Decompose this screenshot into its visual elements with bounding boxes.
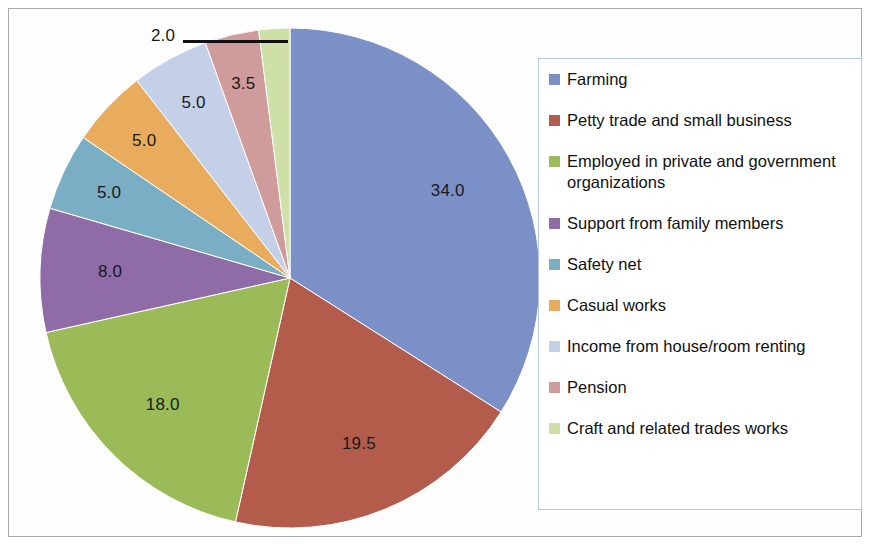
- legend-item[interactable]: Income from house/room renting: [549, 336, 861, 357]
- legend-item-label: Employed in private and government organ…: [567, 151, 847, 193]
- legend-item-label: Pension: [567, 377, 627, 398]
- legend-swatch-icon: [549, 115, 560, 126]
- legend-item-label: Safety net: [567, 254, 641, 275]
- chart-legend: FarmingPetty trade and small businessEmp…: [538, 58, 862, 510]
- legend-item-label: Farming: [567, 69, 628, 90]
- legend-item[interactable]: Craft and related trades works: [549, 418, 861, 439]
- legend-item[interactable]: Casual works: [549, 295, 861, 316]
- legend-item-label: Support from family members: [567, 213, 783, 234]
- legend-item-label: Casual works: [567, 295, 666, 316]
- legend-item-label: Craft and related trades works: [567, 418, 788, 439]
- legend-swatch-icon: [549, 300, 560, 311]
- legend-swatch-icon: [549, 218, 560, 229]
- legend-item[interactable]: Petty trade and small business: [549, 110, 861, 131]
- legend-swatch-icon: [549, 382, 560, 393]
- legend-item[interactable]: Support from family members: [549, 213, 861, 234]
- legend-swatch-icon: [549, 423, 560, 434]
- pie-value-label: 5.0: [97, 183, 121, 203]
- legend-swatch-icon: [549, 341, 560, 352]
- legend-item-label: Petty trade and small business: [567, 110, 792, 131]
- pie-value-label-craft: 2.0: [151, 26, 175, 46]
- legend-item[interactable]: Pension: [549, 377, 861, 398]
- callout-leader-line: [183, 40, 288, 43]
- legend-item[interactable]: Farming: [549, 69, 861, 90]
- pie-value-label: 3.5: [231, 74, 255, 94]
- pie-value-label: 5.0: [132, 131, 156, 151]
- pie-value-label: 18.0: [146, 395, 180, 415]
- legend-swatch-icon: [549, 74, 560, 85]
- pie-value-label: 19.5: [342, 434, 376, 454]
- legend-item[interactable]: Employed in private and government organ…: [549, 151, 861, 193]
- pie-value-label: 34.0: [431, 181, 465, 201]
- pie-value-label: 8.0: [98, 262, 122, 282]
- pie-value-label: 5.0: [182, 93, 206, 113]
- legend-item[interactable]: Safety net: [549, 254, 861, 275]
- legend-swatch-icon: [549, 156, 560, 167]
- legend-swatch-icon: [549, 259, 560, 270]
- legend-item-label: Income from house/room renting: [567, 336, 805, 357]
